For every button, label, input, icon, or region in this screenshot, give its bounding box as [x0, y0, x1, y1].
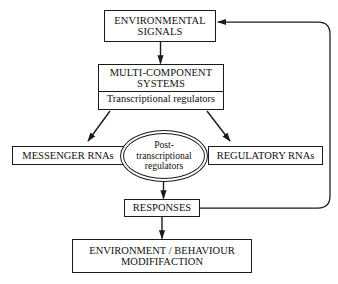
connector-responses-feedback-to-signals — [200, 22, 330, 208]
node-multi-component-systems: MULTI-COMPONENT SYSTEMS Transcriptional … — [98, 64, 224, 110]
diagram-canvas: ENVIRONMENTAL SIGNALS MULTI-COMPONENT SY… — [0, 0, 338, 284]
connector-systems-to-messenger-rnas — [88, 111, 110, 141]
node-messenger-rnas: MESSENGER RNAs — [12, 146, 124, 165]
node-environmental-signals-line2: SIGNALS — [105, 26, 215, 37]
node-messenger-rnas-label: MESSENGER RNAs — [13, 150, 123, 161]
node-regulatory-rnas: REGULATORY RNAs — [208, 146, 323, 165]
node-regulatory-rnas-label: REGULATORY RNAs — [209, 150, 322, 161]
node-environmental-signals-line1: ENVIRONMENTAL — [105, 15, 215, 26]
node-multi-component-systems-subsection: Transcriptional regulators — [99, 92, 223, 105]
node-responses: RESPONSES — [124, 199, 200, 217]
node-post-transcriptional-regulators: Post- transcriptional regulators — [120, 130, 208, 182]
node-multi-component-systems-upper: MULTI-COMPONENT SYSTEMS — [99, 65, 223, 91]
node-environmental-signals: ENVIRONMENTAL SIGNALS — [104, 10, 216, 42]
node-environment-behaviour-line2: MODIFIFACTION — [73, 256, 251, 267]
node-multi-component-systems-line2: SYSTEMS — [99, 78, 223, 89]
node-responses-label: RESPONSES — [125, 202, 199, 213]
node-environment-behaviour-line1: ENVIRONMENT / BEHAVIOUR — [73, 245, 251, 256]
node-post-transcriptional-regulators-line3: regulators — [136, 161, 191, 172]
connector-systems-to-regulatory-rnas — [207, 111, 230, 141]
node-multi-component-systems-line1: MULTI-COMPONENT — [99, 67, 223, 78]
node-environment-behaviour: ENVIRONMENT / BEHAVIOUR MODIFIFACTION — [72, 239, 252, 273]
node-post-transcriptional-regulators-text: Post- transcriptional regulators — [136, 140, 191, 172]
